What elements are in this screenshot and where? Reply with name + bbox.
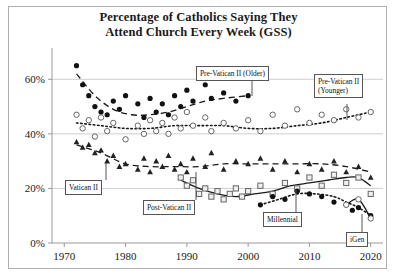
data-point — [270, 112, 275, 117]
data-point — [154, 128, 159, 133]
annotation-label: iGen — [350, 235, 364, 244]
data-point — [141, 115, 146, 120]
data-point — [282, 180, 287, 185]
data-point — [178, 175, 183, 180]
data-point — [172, 115, 177, 120]
data-point — [209, 194, 214, 199]
data-point — [221, 120, 226, 125]
data-point — [319, 112, 324, 117]
data-point — [258, 202, 263, 207]
data-point — [74, 139, 80, 144]
data-point — [178, 161, 184, 166]
data-point — [307, 120, 312, 125]
data-point — [141, 155, 147, 160]
data-point — [203, 115, 208, 120]
data-point — [104, 128, 109, 133]
data-point — [233, 158, 239, 163]
data-point — [307, 191, 312, 196]
series-post-vatican-ii — [178, 172, 373, 202]
data-point — [221, 166, 227, 171]
data-point — [172, 93, 177, 98]
data-point — [178, 126, 183, 131]
data-point — [343, 169, 349, 174]
x-axis-tick-label-5: 2020 — [360, 250, 383, 262]
annotation-label-line-2: (Younger) — [318, 86, 348, 95]
data-point — [111, 120, 116, 125]
data-point — [86, 118, 91, 123]
data-point — [190, 123, 195, 128]
data-point — [111, 99, 116, 104]
data-point — [331, 172, 336, 177]
data-point — [147, 169, 153, 174]
data-point — [319, 183, 324, 188]
data-point — [135, 101, 140, 106]
data-point — [166, 153, 172, 158]
data-point — [166, 112, 171, 117]
data-point — [135, 166, 141, 171]
data-point — [368, 216, 373, 221]
data-point — [203, 186, 208, 191]
data-point — [92, 150, 98, 155]
y-axis-tick-label-1: 20% — [25, 182, 45, 194]
data-point — [307, 175, 312, 180]
data-point — [74, 63, 79, 68]
y-axis-tick-label-3: 60% — [25, 73, 45, 85]
data-point — [178, 104, 183, 109]
annotation-label: Millennial — [267, 215, 298, 224]
data-point — [356, 175, 361, 180]
series-vatican-ii — [74, 139, 374, 180]
data-point — [105, 112, 110, 117]
data-point — [80, 126, 85, 131]
data-point — [356, 205, 361, 210]
data-point — [190, 99, 195, 104]
y-axis-tick-label-2: 40% — [25, 128, 45, 140]
data-point — [233, 186, 238, 191]
data-point — [153, 158, 159, 163]
data-point — [221, 90, 226, 95]
data-point — [344, 107, 349, 112]
chart-svg: 0%20%40%60%197019801990200020102020 — [0, 0, 397, 279]
plot-area: 0%20%40%60%197019801990200020102020 — [0, 0, 397, 279]
data-point — [350, 208, 355, 213]
x-axis-tick-label-2: 1990 — [176, 250, 199, 262]
data-point — [141, 131, 146, 136]
annotation-vatican-ii: Vatican II — [65, 180, 102, 195]
data-point — [197, 191, 202, 196]
data-point — [203, 82, 208, 87]
series-pre-vatican-ii-younger — [74, 107, 374, 142]
x-axis-tick-label-3: 2000 — [237, 250, 260, 262]
annotation-label: Post-Vatican II — [147, 203, 191, 212]
data-point — [270, 194, 275, 199]
x-axis-tick-label-0: 1970 — [53, 250, 76, 262]
data-point — [92, 104, 97, 109]
data-point — [86, 93, 91, 98]
data-point — [233, 126, 238, 131]
data-point — [147, 96, 152, 101]
data-point — [104, 158, 110, 163]
data-point — [270, 166, 276, 171]
data-point — [209, 96, 214, 101]
data-point — [190, 178, 195, 183]
data-point — [233, 99, 238, 104]
data-point — [294, 169, 300, 174]
data-point — [184, 109, 189, 114]
data-point — [356, 197, 361, 202]
data-point — [86, 142, 92, 147]
data-point — [98, 115, 103, 120]
data-point — [160, 120, 165, 125]
data-point — [190, 155, 196, 160]
data-point — [98, 109, 103, 114]
data-point — [258, 128, 263, 133]
annotation-label: Pre-Vatican II (Older) — [200, 69, 265, 78]
data-point — [258, 155, 264, 160]
data-point — [117, 107, 122, 112]
data-point — [356, 115, 361, 120]
x-axis-tick-label-1: 1980 — [115, 250, 138, 262]
data-point — [282, 158, 288, 163]
data-point — [246, 189, 251, 194]
data-point — [123, 93, 128, 98]
x-axis-tick-label-4: 2010 — [298, 250, 321, 262]
annotation-igen: iGen — [346, 232, 368, 247]
data-point — [344, 202, 349, 207]
data-point — [239, 194, 244, 199]
